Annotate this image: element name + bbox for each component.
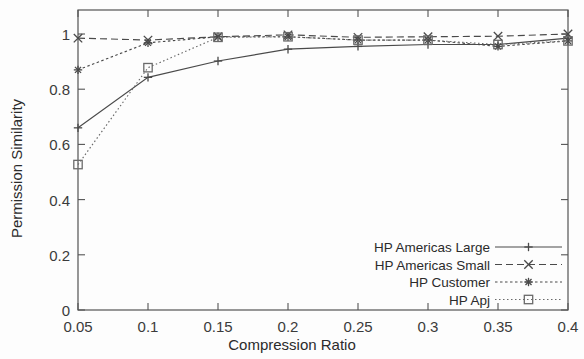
y-axis-title: Permission Similarity bbox=[8, 69, 25, 269]
x-tick-label: 0.35 bbox=[483, 318, 512, 335]
x-tick-label: 0.1 bbox=[138, 318, 159, 335]
x-axis-title: Compression Ratio bbox=[0, 336, 584, 353]
x-tick-label: 0.25 bbox=[343, 318, 372, 335]
legend-entry-label: HP Apj bbox=[240, 292, 490, 307]
y-tick-label: 1 bbox=[12, 26, 70, 43]
chart-figure: 00.20.40.60.81 0.050.10.150.20.250.30.35… bbox=[0, 0, 584, 359]
x-tick-label: 0.2 bbox=[278, 318, 299, 335]
y-tick-label: 0 bbox=[12, 302, 70, 319]
legend-entry-label: HP Americas Large bbox=[240, 240, 490, 255]
x-tick-label: 0.15 bbox=[203, 318, 232, 335]
x-tick-label: 0.4 bbox=[558, 318, 579, 335]
legend-entry-label: HP Customer bbox=[240, 275, 490, 290]
legend-entry-label: HP Americas Small bbox=[240, 257, 490, 272]
x-tick-label: 0.3 bbox=[418, 318, 439, 335]
x-tick-label: 0.05 bbox=[63, 318, 92, 335]
legend-box bbox=[495, 243, 562, 304]
data-series-group bbox=[74, 30, 572, 169]
